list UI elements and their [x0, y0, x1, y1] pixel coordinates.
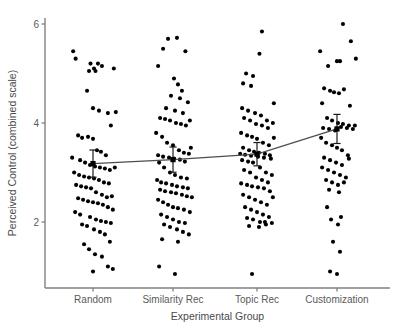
- data-point: [71, 49, 75, 53]
- data-point: [332, 90, 336, 94]
- data-point: [174, 191, 178, 195]
- data-point: [328, 158, 332, 162]
- data-point: [265, 118, 269, 122]
- data-point: [102, 180, 106, 184]
- data-point: [163, 117, 167, 121]
- data-point: [86, 199, 90, 203]
- data-point: [247, 224, 251, 228]
- data-point: [77, 173, 81, 177]
- data-point: [272, 101, 276, 105]
- mean-trend-line: [93, 129, 337, 164]
- data-point: [114, 110, 118, 114]
- data-point: [158, 188, 162, 192]
- data-point: [189, 146, 193, 150]
- x-tick-label-similarity-rec: Similarity Rec: [142, 294, 203, 305]
- data-point: [168, 118, 172, 122]
- data-point: [249, 208, 253, 212]
- data-point: [157, 161, 161, 165]
- data-point: [96, 201, 100, 205]
- data-point: [76, 133, 80, 137]
- data-point: [248, 118, 252, 122]
- data-point: [80, 136, 84, 140]
- mean-marker-similarity-rec: [169, 147, 176, 172]
- data-point: [245, 133, 249, 137]
- data-point: [72, 170, 76, 174]
- data-point: [105, 195, 109, 199]
- data-point: [174, 121, 178, 125]
- data-point: [73, 210, 77, 214]
- data-point: [342, 87, 346, 91]
- data-point: [272, 136, 276, 140]
- data-point: [338, 250, 342, 254]
- data-point: [263, 220, 267, 224]
- data-point: [347, 157, 351, 161]
- data-point: [94, 217, 98, 221]
- data-point: [259, 114, 263, 118]
- data-point: [330, 180, 334, 184]
- data-point: [338, 173, 342, 177]
- data-point: [87, 247, 91, 251]
- data-point: [88, 62, 92, 66]
- data-point: [260, 29, 264, 33]
- data-point: [255, 210, 259, 214]
- data-point: [254, 122, 258, 126]
- data-point: [158, 116, 162, 120]
- data-point: [179, 122, 183, 126]
- data-point: [165, 141, 169, 145]
- chart-figure: 246RandomSimilarity RecTopic RecCustomiz…: [0, 0, 401, 336]
- data-point: [109, 123, 113, 127]
- data-point: [268, 189, 272, 193]
- data-point: [106, 111, 110, 115]
- data-point: [159, 213, 163, 217]
- data-point: [271, 121, 275, 125]
- data-point: [91, 269, 95, 273]
- data-point: [91, 200, 95, 204]
- data-point: [264, 170, 268, 174]
- data-point: [270, 221, 274, 225]
- data-point: [89, 186, 93, 190]
- data-point: [85, 224, 89, 228]
- data-point: [155, 178, 159, 182]
- axes-layer: [42, 18, 391, 292]
- mean-marker-random: [89, 150, 96, 177]
- data-point: [103, 232, 107, 236]
- data-point: [321, 126, 325, 130]
- data-point: [260, 178, 264, 182]
- data-point: [241, 81, 245, 85]
- data-point: [345, 126, 349, 130]
- data-point: [156, 198, 160, 202]
- data-point: [177, 220, 181, 224]
- data-point: [166, 203, 170, 207]
- data-point: [178, 96, 182, 100]
- data-point: [70, 156, 74, 160]
- data-point: [103, 166, 107, 170]
- data-point: [262, 186, 266, 190]
- data-point: [249, 84, 253, 88]
- data-point: [106, 205, 110, 209]
- data-point: [251, 74, 255, 78]
- data-point: [331, 240, 335, 244]
- data-point: [257, 52, 261, 56]
- data-point: [182, 208, 186, 212]
- data-point: [322, 86, 326, 90]
- data-point: [262, 156, 266, 160]
- data-point: [85, 89, 89, 93]
- data-point: [100, 255, 104, 259]
- data-point: [335, 272, 339, 276]
- data-point: [354, 57, 358, 61]
- data-point: [104, 153, 108, 157]
- data-point: [109, 221, 113, 225]
- data-point: [247, 195, 251, 199]
- data-point: [111, 267, 115, 271]
- data-point: [161, 155, 165, 159]
- data-point: [267, 143, 271, 147]
- data-point: [171, 205, 175, 209]
- data-point: [246, 109, 250, 113]
- data-point: [353, 123, 357, 127]
- data-point: [168, 225, 172, 229]
- data-point: [160, 135, 164, 139]
- data-point: [253, 198, 257, 202]
- data-point: [154, 131, 158, 135]
- data-point: [325, 116, 329, 120]
- data-point: [245, 183, 249, 187]
